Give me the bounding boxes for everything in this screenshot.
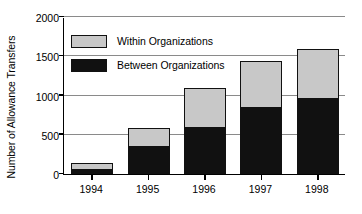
legend-swatch-icon [71,35,107,48]
stacked-bar-chart: Number of Allowance Transfers 0500100015… [0,0,362,214]
chart-legend: Within OrganizationsBetween Organization… [71,31,225,79]
bar-segment-between-organizations[interactable] [71,170,113,174]
y-tick-mark-1000 [59,94,64,96]
x-tick-label-1996: 1996 [174,183,234,195]
x-axis-tick-labels: 19941995199619971998 [63,183,345,199]
y-tick-label-500: 500 [25,130,59,142]
bar-segment-between-organizations[interactable] [184,128,226,174]
bar-segment-within-organizations[interactable] [71,163,113,170]
x-tick-label-1997: 1997 [230,183,290,195]
y-axis-title: Number of Allowance Transfers [0,0,22,214]
legend-item-label: Between Organizations [117,59,225,71]
x-tick-mark-1994 [91,175,93,180]
y-tick-label-2000: 2000 [25,12,59,24]
legend-item[interactable]: Within Organizations [71,31,225,51]
bar-segment-between-organizations[interactable] [240,108,282,174]
legend-item-label: Within Organizations [117,35,213,47]
gridline-2000 [64,16,345,17]
y-tick-label-1000: 1000 [25,91,59,103]
bar-segment-within-organizations[interactable] [240,61,282,108]
legend-item[interactable]: Between Organizations [71,55,225,75]
y-tick-mark-500 [59,133,64,135]
x-tick-mark-1997 [261,175,263,180]
y-tick-label-0: 0 [25,169,59,181]
y-tick-mark-0 [59,173,64,175]
bar-segment-within-organizations[interactable] [128,128,170,147]
x-tick-label-1998: 1998 [287,183,347,195]
y-tick-mark-2000 [59,16,64,18]
x-tick-mark-1996 [204,175,206,180]
legend-swatch-icon [71,59,107,72]
y-tick-mark-1500 [59,55,64,57]
x-tick-mark-1995 [148,175,150,180]
bar-segment-between-organizations[interactable] [128,147,170,174]
bar-segment-within-organizations[interactable] [297,49,339,99]
bar-segment-within-organizations[interactable] [184,88,226,127]
bar-segment-between-organizations[interactable] [297,99,339,174]
x-tick-label-1995: 1995 [118,183,178,195]
x-tick-label-1994: 1994 [61,183,121,195]
y-tick-label-1500: 1500 [25,51,59,63]
y-axis-tick-labels: 0500100015002000 [23,18,59,175]
x-tick-mark-1998 [317,175,319,180]
